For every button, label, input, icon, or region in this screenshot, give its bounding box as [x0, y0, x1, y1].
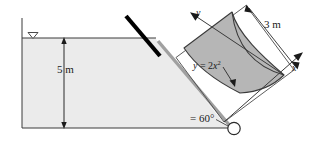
hinge-circle-icon — [228, 122, 240, 134]
curve-equation-exponent: 2 — [218, 59, 221, 66]
plate-dimension-label: 3 m — [264, 19, 281, 30]
curve-equation-label: y = 2x2 — [193, 60, 221, 71]
depth-label: 5 m — [57, 64, 74, 75]
angle-label: = 60° — [190, 113, 214, 124]
curve-equation-operator: = 2 — [197, 60, 213, 71]
axis-y-label: y — [196, 8, 200, 18]
figure-canvas — [0, 0, 309, 142]
fluid-mechanics-figure: 5 m 3 m = 60° y = 2x2 y x — [0, 0, 309, 142]
axis-x-label: x — [292, 63, 296, 73]
